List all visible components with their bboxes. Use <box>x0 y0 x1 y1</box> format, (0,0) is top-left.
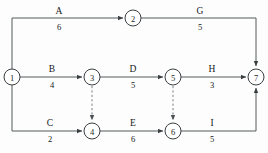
node-2-label: 2 <box>131 14 135 24</box>
node-7-label: 7 <box>254 73 258 83</box>
edge-I-line <box>181 88 256 131</box>
node-2[interactable]: 2 <box>125 10 141 26</box>
edge-G: G 5 <box>141 6 256 66</box>
node-4[interactable]: 4 <box>84 123 100 139</box>
node-3[interactable]: 3 <box>84 69 100 85</box>
network-diagram: A 6 G 5 B 4 D 5 H 3 C <box>0 0 268 153</box>
edge-A-name: A <box>56 6 63 16</box>
node-1-label: 1 <box>10 73 14 83</box>
node-5[interactable]: 5 <box>165 69 181 85</box>
node-5-label: 5 <box>171 73 175 83</box>
edge-C: C 2 <box>12 85 82 144</box>
network-canvas: A 6 G 5 B 4 D 5 H 3 C <box>0 0 268 153</box>
edge-G-duration: 5 <box>198 22 202 32</box>
node-3-label: 3 <box>90 73 94 83</box>
edge-D: D 5 <box>100 64 163 90</box>
node-1[interactable]: 1 <box>4 69 20 85</box>
edge-H: H 3 <box>181 64 246 90</box>
edge-A-line <box>12 18 123 69</box>
edge-I: I 5 <box>181 88 256 144</box>
edge-C-duration: 2 <box>48 134 52 144</box>
edge-A: A 6 <box>12 6 123 69</box>
node-6-label: 6 <box>171 127 175 137</box>
edge-D-name: D <box>130 64 137 74</box>
edge-D-duration: 5 <box>131 80 135 90</box>
edge-C-name: C <box>47 118 53 128</box>
edge-E: E 6 <box>100 118 163 144</box>
node-6[interactable]: 6 <box>165 123 181 139</box>
edge-E-name: E <box>130 118 136 128</box>
edge-I-duration: 5 <box>210 134 214 144</box>
edge-H-name: H <box>209 64 216 74</box>
edge-G-name: G <box>197 6 204 16</box>
edge-H-duration: 3 <box>210 80 214 90</box>
edge-I-name: I <box>210 118 213 128</box>
node-7[interactable]: 7 <box>248 69 264 85</box>
edge-B: B 4 <box>20 64 82 90</box>
edge-B-name: B <box>49 64 55 74</box>
edge-E-duration: 6 <box>131 134 135 144</box>
edge-B-duration: 4 <box>50 80 55 90</box>
edge-A-duration: 6 <box>57 22 61 32</box>
